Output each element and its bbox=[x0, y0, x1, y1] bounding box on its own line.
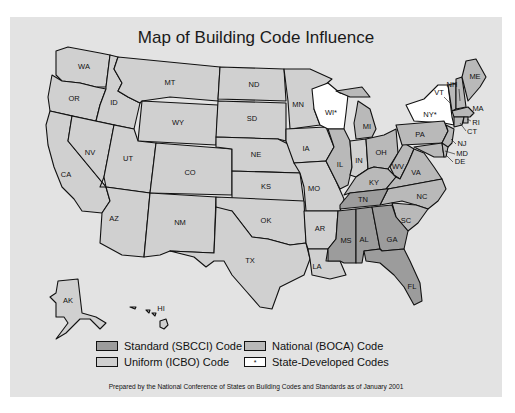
label-ms: MS bbox=[340, 236, 351, 245]
legend-item-sbcci: Standard (SBCCI) Code bbox=[96, 340, 242, 352]
legend-label-state-developed: State-Developed Codes bbox=[272, 356, 389, 368]
us-map: WA OR CA ID NV MT WY UT AZ CO NM ND SD N… bbox=[10, 17, 502, 347]
label-ks: KS bbox=[261, 182, 271, 191]
state-fl bbox=[364, 249, 422, 305]
label-ut: UT bbox=[123, 154, 133, 163]
label-mo: MO bbox=[308, 184, 320, 193]
legend-label-boca: National (BOCA) Code bbox=[272, 340, 383, 352]
label-mi: MI bbox=[363, 122, 371, 131]
label-ne: NE bbox=[251, 150, 261, 159]
state-ak bbox=[50, 279, 106, 339]
legend-label-sbcci: Standard (SBCCI) Code bbox=[124, 340, 242, 352]
label-sc: SC bbox=[401, 216, 412, 225]
label-nj: NJ bbox=[457, 139, 466, 148]
label-de: DE bbox=[455, 157, 465, 166]
label-va: VA bbox=[411, 168, 420, 177]
label-ri: RI bbox=[472, 118, 480, 127]
label-az: AZ bbox=[109, 214, 119, 223]
label-id: ID bbox=[110, 98, 118, 107]
label-ga: GA bbox=[387, 235, 398, 244]
label-nd: ND bbox=[249, 80, 260, 89]
label-ct: CT bbox=[467, 127, 477, 136]
source-footnote: Prepared by the National Conference of S… bbox=[10, 383, 502, 390]
state-ia bbox=[286, 127, 334, 163]
label-wy: WY bbox=[172, 118, 184, 127]
legend-label-icbo: Uniform (ICBO) Code bbox=[124, 356, 229, 368]
label-ny: NY* bbox=[423, 110, 436, 119]
legend-swatch-icbo bbox=[96, 357, 118, 367]
label-me: ME bbox=[469, 72, 480, 81]
label-tn: TN bbox=[358, 195, 368, 204]
label-ak: AK bbox=[63, 296, 73, 305]
label-co: CO bbox=[184, 168, 195, 177]
legend-item-state-developed: * State-Developed Codes bbox=[244, 356, 389, 368]
legend-swatch-state-developed: * bbox=[244, 357, 266, 367]
label-wv: WV bbox=[392, 162, 404, 171]
label-tx: TX bbox=[245, 256, 255, 265]
label-ky: KY bbox=[369, 178, 379, 187]
label-nm: NM bbox=[174, 218, 186, 227]
map-panel: Map of Building Code Influence bbox=[10, 17, 502, 397]
legend-swatch-boca bbox=[244, 341, 266, 351]
label-al: AL bbox=[359, 235, 368, 244]
state-ri bbox=[463, 117, 468, 123]
label-ma: MA bbox=[472, 104, 483, 113]
legend-item-boca: National (BOCA) Code bbox=[244, 340, 383, 352]
label-il: IL bbox=[337, 160, 343, 169]
label-nh: NH bbox=[447, 80, 458, 89]
label-ia: IA bbox=[302, 144, 309, 153]
label-fl: FL bbox=[408, 282, 417, 291]
label-pa: PA bbox=[415, 130, 424, 139]
label-mt: MT bbox=[165, 78, 176, 87]
label-sd: SD bbox=[247, 114, 258, 123]
label-hi: HI bbox=[157, 304, 165, 313]
label-wi: WI* bbox=[325, 108, 337, 117]
label-ca: CA bbox=[61, 170, 71, 179]
label-la: LA bbox=[312, 262, 321, 271]
label-ok: OK bbox=[261, 216, 272, 225]
legend-item-icbo: Uniform (ICBO) Code bbox=[96, 356, 229, 368]
label-nv: NV bbox=[85, 148, 95, 157]
label-nc: NC bbox=[417, 192, 428, 201]
state-ct bbox=[454, 117, 464, 127]
state-ny bbox=[406, 85, 454, 125]
label-mn: MN bbox=[292, 100, 304, 109]
asterisk-marker: * bbox=[254, 359, 257, 366]
label-wa: WA bbox=[78, 62, 90, 71]
label-or: OR bbox=[68, 94, 80, 103]
label-in: IN bbox=[355, 156, 363, 165]
legend-swatch-sbcci bbox=[96, 341, 118, 351]
label-vt: VT bbox=[434, 88, 444, 97]
label-ar: AR bbox=[315, 224, 326, 233]
label-oh: OH bbox=[375, 148, 386, 157]
